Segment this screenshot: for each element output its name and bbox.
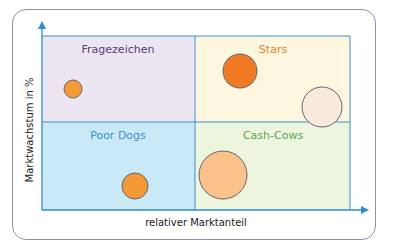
y-axis-label: Marktwachstum in % bbox=[24, 78, 35, 183]
bubble-stars-2 bbox=[302, 87, 342, 127]
x-axis-label: relativer Marktanteil bbox=[145, 217, 247, 228]
quadrant-label-cash-cows: Cash-Cows bbox=[243, 129, 304, 142]
quadrant-label-stars: Stars bbox=[259, 43, 288, 56]
bubble-stars-1 bbox=[223, 54, 257, 88]
x-axis-arrow-icon bbox=[361, 206, 369, 214]
bubble-cash-cows bbox=[199, 151, 247, 199]
bubble-fragezeichen bbox=[64, 80, 82, 98]
bubble-poor-dogs bbox=[122, 173, 148, 199]
quadrant-label-poor-dogs: Poor Dogs bbox=[90, 129, 146, 142]
quadrant-label-fragezeichen: Fragezeichen bbox=[82, 43, 155, 56]
y-axis-arrow-icon bbox=[38, 21, 46, 29]
portfolio-matrix: Fragezeichen Stars Poor Dogs Cash-Cows r… bbox=[0, 0, 396, 249]
